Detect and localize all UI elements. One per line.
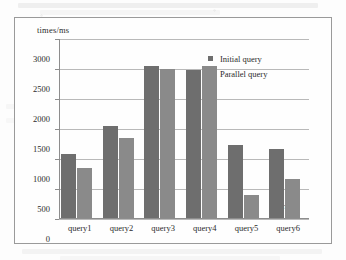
bar-parallel-query: [119, 138, 134, 218]
x-axis-category-label: query3: [143, 223, 183, 233]
bar-initial-query: [269, 149, 284, 218]
legend-swatch-icon: [208, 71, 213, 76]
y-axis-tick-label: 3000: [33, 55, 50, 64]
x-axis-line: [59, 218, 309, 219]
bar-initial-query: [186, 70, 201, 219]
bar-initial-query: [103, 126, 118, 218]
y-axis-tick-label: 2500: [33, 85, 50, 94]
plot-area: query1query2query3query4query5query6: [59, 39, 309, 219]
bar-group: [59, 39, 101, 218]
legend-swatch-icon: [208, 56, 213, 61]
x-axis-category-label: query5: [227, 223, 267, 233]
y-axis-tick-label: 1500: [33, 145, 50, 154]
y-axis-tick-label: 2000: [33, 115, 50, 124]
y-axis-tick-label: 1000: [33, 175, 50, 184]
legend-item-label: Initial query: [220, 54, 262, 64]
chart-legend: Initial queryParallel query: [208, 51, 267, 81]
y-axis-tick-labels: 300025002000150010005000: [15, 39, 56, 219]
legend-item-label: Parallel query: [220, 69, 267, 79]
gridline: [59, 219, 309, 220]
x-axis-category-label: query2: [102, 223, 142, 233]
bar-parallel-query: [160, 69, 175, 218]
y-axis-title: times/ms: [37, 25, 69, 35]
bar-parallel-query: [202, 66, 217, 218]
bar-group: [267, 39, 309, 218]
bar-initial-query: [144, 66, 159, 218]
y-axis-tick: [55, 219, 59, 220]
bar-group: [101, 39, 143, 218]
bar-group: [142, 39, 184, 218]
bar-initial-query: [228, 145, 243, 218]
bar-parallel-query: [77, 168, 92, 218]
chart-figure: times/ms queries 30002500200015001000500…: [14, 17, 332, 244]
x-axis-category-label: query6: [268, 223, 308, 233]
y-axis-tick-label: 500: [37, 205, 50, 214]
x-axis-category-label: query4: [185, 223, 225, 233]
legend-item: Initial query: [208, 51, 267, 66]
bar-initial-query: [61, 154, 76, 218]
x-axis-category-label: query1: [60, 223, 100, 233]
bar-parallel-query: [285, 179, 300, 218]
legend-item: Parallel query: [208, 66, 267, 81]
y-axis-tick-label: 0: [46, 235, 50, 244]
bar-parallel-query: [244, 195, 259, 218]
